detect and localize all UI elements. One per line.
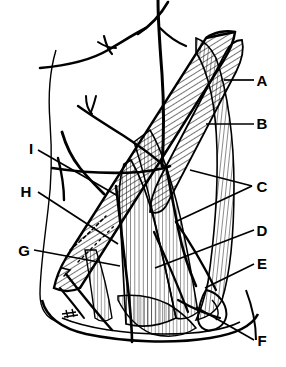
anatomical-figure: A B C D E F G H I xyxy=(0,0,286,367)
label-a: A xyxy=(257,72,268,89)
label-c: C xyxy=(257,178,268,195)
label-h: H xyxy=(21,183,32,200)
anatomy-drawing: A B C D E F G H I xyxy=(0,0,286,367)
label-g: G xyxy=(18,242,30,259)
label-e: E xyxy=(257,255,267,272)
label-d: D xyxy=(257,222,268,239)
label-i: I xyxy=(29,140,33,157)
label-b: B xyxy=(257,115,268,132)
label-f: F xyxy=(257,332,266,349)
